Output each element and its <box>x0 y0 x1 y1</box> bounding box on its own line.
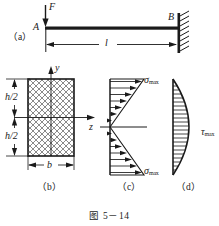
normal-stress-envelope-bottom <box>110 127 144 175</box>
dimension-h-half-bottom-label: h/2 <box>5 131 18 141</box>
shear-stress-diagram <box>165 62 219 182</box>
span-dimension-line <box>46 38 177 51</box>
dimension-b-label: b <box>47 160 52 170</box>
span-label-l: l <box>105 38 108 48</box>
load-label-f: F <box>49 2 55 12</box>
normal-stress-arrows-top <box>107 79 142 122</box>
panel-label-d: （d） <box>176 183 201 193</box>
panel-label-b: （b） <box>37 183 62 193</box>
free-end-label-a: A <box>33 22 39 32</box>
normal-stress-envelope-top <box>110 79 144 127</box>
normal-stress-diagram <box>100 62 170 182</box>
beam-member <box>45 27 178 30</box>
tau-max-label: τmax <box>201 127 214 137</box>
fixed-end-label-b: B <box>168 12 174 22</box>
figure-5-14: （a） F A B l <box>0 0 219 226</box>
panel-label-c: （c） <box>117 183 141 193</box>
sigma-max-top-label: σmax <box>144 75 159 85</box>
sigma-max-bottom-label: σmax <box>144 166 159 176</box>
dimension-h-half-top-label: h/2 <box>5 92 18 102</box>
axis-y-label: y <box>55 63 59 73</box>
normal-stress-arrows-bottom <box>107 132 142 175</box>
fixed-support-wall <box>178 11 190 53</box>
figure-caption: 图 5－14 <box>0 208 219 222</box>
axis-z-label: z <box>89 122 93 132</box>
load-arrow-f <box>42 5 48 27</box>
